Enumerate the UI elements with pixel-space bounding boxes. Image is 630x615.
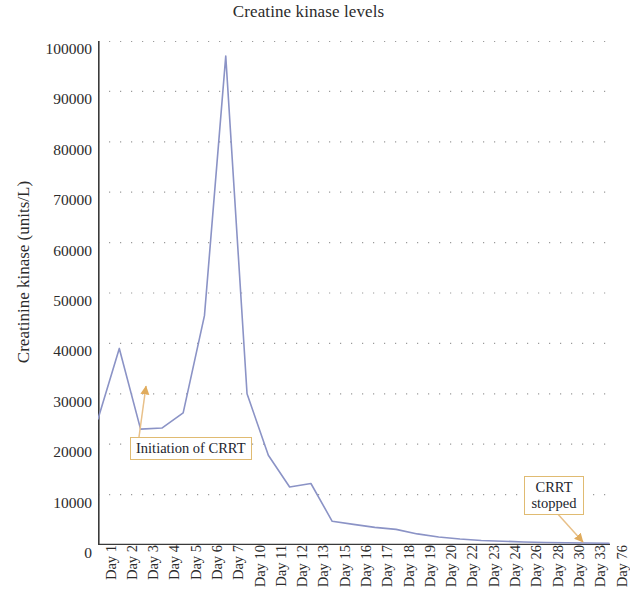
x-axis-tick-label: Day 24	[508, 545, 523, 611]
x-axis-tick-label: Day 11	[274, 545, 289, 611]
y-axis-tick-label: 60000	[22, 243, 92, 259]
y-axis-tick-label: 50000	[22, 293, 92, 309]
x-axis-tick-label: Day 20	[444, 545, 459, 611]
y-axis-tick-label: 90000	[22, 91, 92, 107]
x-axis-tick-label: Day 26	[529, 545, 544, 611]
x-axis-tick-label: Day 23	[487, 545, 502, 611]
gridlines	[98, 41, 610, 545]
y-axis-tick-label: 100000	[22, 41, 92, 57]
x-axis-tick-label: Day 5	[189, 545, 204, 611]
chart-title: Creatine kinase levels	[0, 2, 617, 22]
y-axis-tick-label: 30000	[22, 394, 92, 410]
x-axis-tick-label: Day 33	[593, 545, 608, 611]
x-axis-tick-label: Day 22	[465, 545, 480, 611]
x-axis-tick-label: Day 6	[210, 545, 225, 611]
x-axis-tick-label: Day 15	[338, 545, 353, 611]
y-axis-tick-label: 20000	[22, 444, 92, 460]
x-axis-tick-label: Day 3	[146, 545, 161, 611]
x-axis-tick-label: Day 17	[380, 545, 395, 611]
annotation-crrt-stopped-line1: CRRT	[530, 479, 578, 495]
x-axis-tick-label: Day 16	[359, 545, 374, 611]
annotation-crrt-stopped: CRRT stopped	[524, 476, 584, 515]
data-series-line	[98, 56, 609, 543]
x-axis-tick-labels: Day 1Day 2Day 3Day 4Day 5Day 6Day 7Day 1…	[98, 549, 610, 615]
y-axis-tick-label: 0	[22, 545, 92, 561]
x-axis-tick-label: Day 18	[402, 545, 417, 611]
line-chart-svg	[98, 41, 610, 545]
annotation-crrt-stopped-line2: stopped	[530, 495, 578, 511]
x-axis-tick-label: Day 76	[615, 545, 630, 611]
x-axis-tick-label: Day 19	[423, 545, 438, 611]
x-axis-tick-label: Day 1	[104, 545, 119, 611]
x-axis-tick-label: Day 10	[253, 545, 268, 611]
y-axis-tick-label: 10000	[22, 495, 92, 511]
x-axis-tick-label: Day 4	[167, 545, 182, 611]
x-axis-tick-label: Day 2	[125, 545, 140, 611]
x-axis-tick-label: Day 12	[295, 545, 310, 611]
y-axis-tick-label: 40000	[22, 343, 92, 359]
x-axis-tick-label: Day 28	[551, 545, 566, 611]
plot-area	[98, 41, 610, 545]
x-axis-tick-label: Day 13	[316, 545, 331, 611]
x-axis-tick-label: Day 30	[572, 545, 587, 611]
x-axis-tick-label: Day 7	[231, 545, 246, 611]
y-axis-tick-labels: 1000009000080000700006000050000400003000…	[22, 31, 92, 553]
y-axis-tick-label: 80000	[22, 142, 92, 158]
annotation-initiation-of-crrt: Initiation of CRRT	[130, 437, 252, 460]
y-axis-tick-label: 70000	[22, 192, 92, 208]
